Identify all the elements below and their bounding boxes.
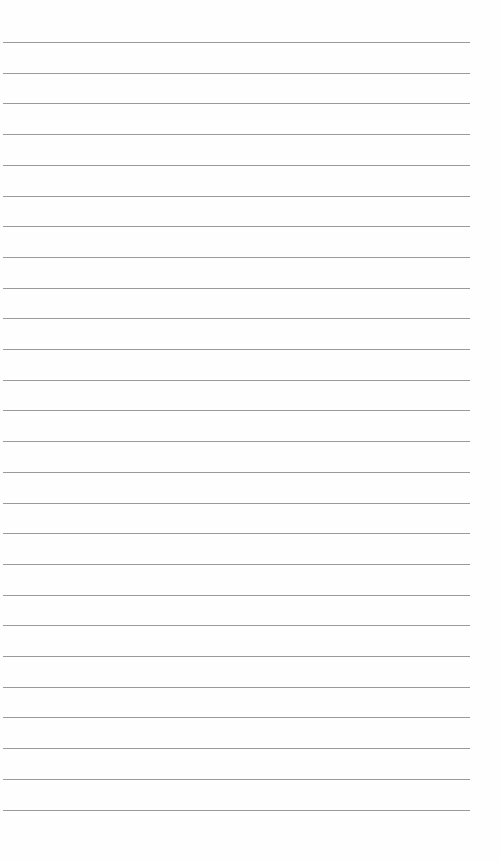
- ruled-line: [3, 533, 470, 534]
- ruled-line: [3, 625, 470, 626]
- ruled-line: [3, 595, 470, 596]
- ruled-line: [3, 73, 470, 74]
- ruled-line: [3, 503, 470, 504]
- ruled-line: [3, 687, 470, 688]
- ruled-line: [3, 257, 470, 258]
- ruled-line: [3, 226, 470, 227]
- ruled-line: [3, 810, 470, 811]
- ruled-line: [3, 380, 470, 381]
- ruled-line: [3, 103, 470, 104]
- ruled-line: [3, 42, 470, 43]
- ruled-line: [3, 165, 470, 166]
- ruled-line: [3, 288, 470, 289]
- ruled-line: [3, 656, 470, 657]
- lined-paper-page: [0, 0, 500, 861]
- ruled-line: [3, 441, 470, 442]
- ruled-line: [3, 196, 470, 197]
- ruled-line: [3, 349, 470, 350]
- ruled-line: [3, 318, 470, 319]
- ruled-line: [3, 717, 470, 718]
- ruled-line: [3, 472, 470, 473]
- ruled-line: [3, 410, 470, 411]
- ruled-line: [3, 564, 470, 565]
- ruled-line: [3, 134, 470, 135]
- ruled-line: [3, 779, 470, 780]
- ruled-line: [3, 748, 470, 749]
